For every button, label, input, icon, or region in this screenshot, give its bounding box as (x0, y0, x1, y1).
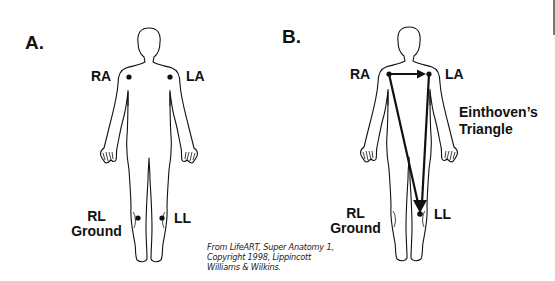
lead-label-ll-a: LL (174, 211, 191, 225)
lead-label-la-b: LA (445, 67, 464, 81)
image-credit: From LifeART, Super Anatomy 1, Copyright… (207, 242, 334, 272)
electrode-rl-a (135, 215, 140, 220)
lead-label-rl-line2-b: Ground (329, 221, 382, 236)
panel-label-b: B. (282, 27, 301, 46)
lead-label-ll-b: LL (434, 207, 451, 221)
electrode-la-b (426, 71, 431, 76)
einthoven-triangle (386, 70, 431, 217)
panel-label-a: A. (25, 33, 44, 52)
einthoven-figure: A. RA LA RL Ground LL From LifeART, Supe… (0, 0, 555, 281)
credit-line-2: Copyright 1998, Lippincott (207, 252, 334, 262)
electrode-ra-b (386, 71, 391, 76)
lead-label-rl-line2-a: Ground (70, 224, 123, 239)
electrode-la-a (167, 74, 172, 79)
electrode-ll-b (417, 211, 423, 217)
lead-label-rl-a: RL Ground (70, 209, 123, 239)
lead-label-rl-line1-b: RL (329, 206, 382, 221)
lead-label-rl-b: RL Ground (329, 206, 382, 236)
lead-label-ra-a: RA (91, 69, 111, 83)
arrowhead-icon (417, 70, 426, 79)
electrode-ra-a (126, 74, 131, 79)
lead-label-rl-line1-a: RL (70, 209, 123, 224)
einthoven-annotation-line2: Triangle (459, 121, 538, 138)
lead-label-ra-b: RA (350, 67, 370, 81)
einthoven-annotation: Einthoven’s Triangle (459, 104, 538, 138)
einthoven-annotation-line1: Einthoven’s (459, 104, 538, 121)
credit-line-3: Williams & Wilkins. (207, 262, 334, 272)
credit-line-1: From LifeART, Super Anatomy 1, (207, 242, 334, 252)
lead-label-la-a: LA (186, 69, 205, 83)
electrode-ll-a (159, 215, 164, 220)
